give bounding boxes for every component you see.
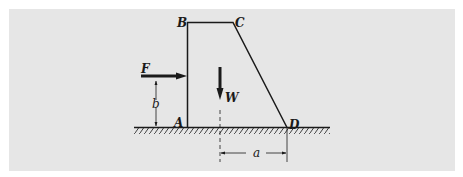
dam-diagram: B C A D F W b a — [0, 0, 463, 177]
ground — [134, 128, 330, 135]
label-point-b: B — [176, 16, 187, 30]
ground-hatching — [134, 128, 330, 134]
dam-outline — [188, 23, 288, 128]
label-point-c: C — [235, 16, 245, 30]
label-dimension-a: a — [253, 146, 260, 160]
label-force-f: F — [140, 62, 151, 76]
label-point-a: A — [173, 116, 183, 130]
label-point-d: D — [288, 118, 300, 132]
weight-w-arrow — [217, 67, 224, 100]
label-weight-w: W — [225, 91, 240, 105]
label-dimension-b: b — [152, 97, 160, 111]
